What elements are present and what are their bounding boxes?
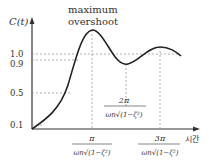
y-tick-0.5: 0.5 [10,88,24,98]
svg-text:3π: 3π [155,134,166,143]
svg-text:ωn√(1−ζ²): ωn√(1−ζ²) [105,111,142,119]
annotation-line-1: maximum [68,4,118,15]
step-response-chart: C(t) 1.0 0.9 0.5 0.1 maximum overshoot π… [0,0,209,166]
svg-text:ωn√(1−ζ²): ωn√(1−ζ²) [141,149,178,157]
svg-text:π: π [88,134,95,143]
y-tick-0.9: 0.9 [10,59,24,69]
x-tick-pi: π ωn√(1−ζ²) [72,134,112,157]
x-axis-arrow-icon [193,127,200,132]
y-axis-label: C(t) [9,16,29,27]
x-tick-3pi: 3π ωn√(1−ζ²) [138,134,180,157]
annotation-line-2: overshoot [68,16,118,27]
svg-text:ωn√(1−ζ²): ωn√(1−ζ²) [73,149,110,157]
svg-text:2π: 2π [118,96,130,105]
y-axis-arrow-icon [30,17,35,24]
y-tick-1.0: 1.0 [10,49,24,59]
y-tick-0.1: 0.1 [10,120,24,130]
x-axis-label: 시간 [185,134,200,144]
x-tick-2pi: 2π ωn√(1−ζ²) [104,96,146,119]
